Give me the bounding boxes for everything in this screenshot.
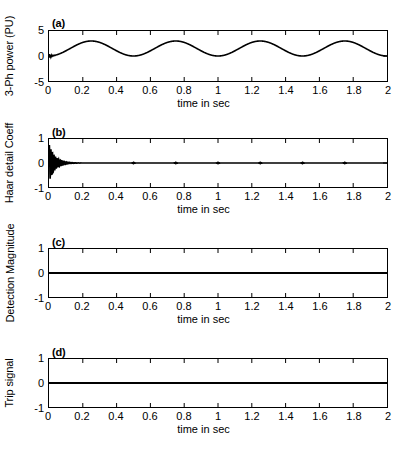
x-tick-label: 0.2 [74, 190, 89, 202]
x-tick-label: 2 [385, 300, 391, 312]
plot-svg [49, 139, 387, 187]
x-axis-label: time in sec [0, 423, 407, 435]
panel-tag: (c) [52, 236, 65, 248]
x-axis-ticks: 00.20.40.60.811.21.41.61.82 [48, 84, 388, 98]
x-tick-label: 2 [385, 84, 391, 96]
x-tick-label: 0 [45, 410, 51, 422]
x-axis-label: time in sec [0, 313, 407, 325]
y-axis-label-text: Detection Magnitude [3, 224, 15, 323]
x-axis-label: time in sec [0, 203, 407, 215]
x-tick-label: 1.6 [312, 84, 327, 96]
y-tick-label: 0 [38, 377, 44, 389]
data-series-line [49, 145, 387, 179]
chart-panel-a: 3-Ph power (PU)50-5(a)00.20.40.60.811.21… [0, 8, 407, 113]
y-axis-label-text: Trip signal [3, 358, 15, 407]
y-axis-label: Haar detail Coeff [0, 132, 18, 194]
x-tick-label: 1 [215, 190, 221, 202]
plot-area [48, 30, 388, 82]
x-tick-label: 0 [45, 190, 51, 202]
y-axis-label: Trip signal [0, 352, 18, 414]
x-axis-ticks: 00.20.40.60.811.21.41.61.82 [48, 410, 388, 424]
panel-tag: (a) [52, 17, 65, 29]
y-tick-label: 1 [38, 352, 44, 364]
x-tick-label: 1.2 [244, 84, 259, 96]
chart-panel-c: Detection Magnitude10-1(c)00.20.40.60.81… [0, 230, 407, 329]
y-axis-label-text: Haar detail Coeff [3, 123, 15, 204]
y-tick-label: -1 [34, 402, 44, 414]
x-tick-label: 1 [215, 410, 221, 422]
x-tick-label: 2 [385, 410, 391, 422]
x-tick-label: 1 [215, 300, 221, 312]
x-tick-label: 0.2 [74, 84, 89, 96]
x-tick-label: 0.6 [142, 84, 157, 96]
x-tick-label: 1.8 [346, 190, 361, 202]
plot-area [48, 138, 388, 188]
x-tick-label: 0.6 [142, 410, 157, 422]
y-tick-label: -1 [34, 292, 44, 304]
y-axis-label-text: 3-Ph power (PU) [3, 16, 15, 96]
x-tick-label: 0.8 [176, 410, 191, 422]
x-tick-label: 1.4 [278, 190, 293, 202]
x-tick-label: 0.2 [74, 410, 89, 422]
x-tick-label: 0.6 [142, 300, 157, 312]
y-tick-label: 0 [38, 267, 44, 279]
y-tick-label: 5 [38, 24, 44, 36]
x-tick-label: 1.4 [278, 300, 293, 312]
x-tick-label: 0.8 [176, 84, 191, 96]
plot-svg [49, 359, 387, 407]
x-axis-label: time in sec [0, 97, 407, 109]
x-tick-label: 0.8 [176, 300, 191, 312]
y-tick-label: -1 [34, 182, 44, 194]
panel-tag: (b) [52, 126, 65, 138]
x-tick-label: 1.2 [244, 300, 259, 312]
x-tick-label: 2 [385, 190, 391, 202]
x-tick-label: 0.8 [176, 190, 191, 202]
x-tick-label: 1.6 [312, 300, 327, 312]
x-tick-label: 0.2 [74, 300, 89, 312]
x-tick-label: 1.6 [312, 190, 327, 202]
x-tick-label: 0.4 [108, 410, 123, 422]
x-axis-ticks: 00.20.40.60.811.21.41.61.82 [48, 300, 388, 314]
x-tick-label: 1.2 [244, 410, 259, 422]
plot-svg [49, 249, 387, 297]
y-tick-label: 0 [38, 50, 44, 62]
data-series-line [49, 41, 387, 58]
x-tick-label: 0.4 [108, 300, 123, 312]
panel-tag: (d) [52, 346, 65, 358]
y-tick-label: 1 [38, 242, 44, 254]
x-axis-ticks: 00.20.40.60.811.21.41.61.82 [48, 190, 388, 204]
y-axis-ticks: 10-1 [18, 248, 46, 298]
x-tick-label: 0 [45, 84, 51, 96]
chart-panel-b: Haar detail Coeff10-1(b)00.20.40.60.811.… [0, 120, 407, 219]
x-tick-label: 0 [45, 300, 51, 312]
x-tick-label: 1 [215, 84, 221, 96]
y-axis-ticks: 10-1 [18, 358, 46, 408]
y-axis-ticks: 10-1 [18, 138, 46, 188]
x-tick-label: 0.4 [108, 84, 123, 96]
y-axis-label: 3-Ph power (PU) [0, 24, 18, 88]
x-tick-label: 1.6 [312, 410, 327, 422]
figure-panel-stack: 3-Ph power (PU)50-5(a)00.20.40.60.811.21… [0, 0, 407, 467]
x-tick-label: 1.2 [244, 190, 259, 202]
x-tick-label: 1.8 [346, 84, 361, 96]
y-tick-label: -5 [34, 76, 44, 88]
x-tick-label: 1.8 [346, 410, 361, 422]
x-tick-label: 0.4 [108, 190, 123, 202]
x-tick-label: 1.4 [278, 84, 293, 96]
plot-area [48, 358, 388, 408]
y-axis-ticks: 50-5 [18, 30, 46, 82]
y-axis-label: Detection Magnitude [0, 242, 18, 304]
x-tick-label: 1.8 [346, 300, 361, 312]
chart-panel-d: Trip signal10-1(d)00.20.40.60.811.21.41.… [0, 340, 407, 439]
y-tick-label: 0 [38, 157, 44, 169]
plot-area [48, 248, 388, 298]
plot-svg [49, 31, 387, 81]
x-tick-label: 0.6 [142, 190, 157, 202]
y-tick-label: 1 [38, 132, 44, 144]
x-tick-label: 1.4 [278, 410, 293, 422]
